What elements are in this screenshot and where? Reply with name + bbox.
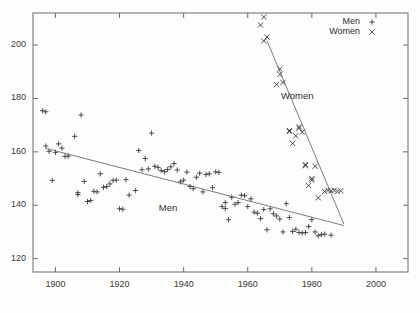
series-men-markers — [40, 108, 334, 238]
y-tick-label: 200 — [0, 39, 26, 49]
y-tick-label: 180 — [0, 92, 26, 102]
y-tick-label: 120 — [0, 253, 26, 263]
series-women-markers — [258, 14, 343, 200]
axis-ticks — [33, 13, 408, 272]
x-tick-label: 1960 — [223, 279, 273, 289]
legend-label-men: Men — [282, 16, 360, 26]
x-tick-label: 2000 — [351, 279, 401, 289]
x-tick-label: 1900 — [30, 279, 80, 289]
legend-markers — [369, 19, 374, 34]
x-tick-label: 1980 — [287, 279, 337, 289]
plot-frame — [33, 13, 408, 272]
chart-root: 120140160180200190019201940196019802000 … — [0, 0, 420, 313]
trendlines — [46, 41, 344, 226]
annotation-women: Women — [281, 90, 314, 101]
scatter-plot-canvas — [0, 0, 420, 313]
y-tick-label: 160 — [0, 146, 26, 156]
y-tick-label: 140 — [0, 199, 26, 209]
x-tick-label: 1940 — [159, 279, 209, 289]
annotation-men: Men — [159, 202, 177, 213]
legend-label-women: Women — [282, 26, 360, 36]
x-tick-label: 1920 — [95, 279, 145, 289]
